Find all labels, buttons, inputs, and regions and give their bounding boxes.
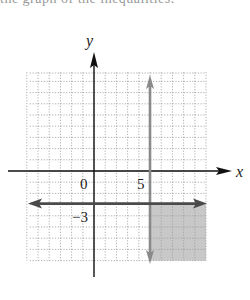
y-axis-label: y [84,32,94,50]
tick-label-origin: 0 [80,176,88,192]
shaded-region-rect [150,205,206,261]
axis-labels: y x 0 5 −3 [72,32,243,225]
coordinate-plane-chart: y x 0 5 −3 [0,0,250,300]
x-axis-label: x [235,163,243,180]
tick-label-x-5: 5 [137,176,145,192]
shaded-solution-region [150,205,206,261]
tick-label-y-neg3: −3 [72,209,88,225]
